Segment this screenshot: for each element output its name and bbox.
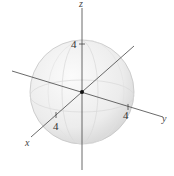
z-axis-label: z <box>78 0 83 9</box>
sphere-diagram: 4 4 4 z x y <box>0 0 174 176</box>
y-tick-label: 4 <box>123 109 129 121</box>
x-axis-label: x <box>24 137 30 148</box>
origin-point <box>80 90 84 94</box>
x-tick-label: 4 <box>53 120 59 132</box>
z-tick-label: 4 <box>71 38 77 50</box>
y-axis-label: y <box>161 113 167 124</box>
